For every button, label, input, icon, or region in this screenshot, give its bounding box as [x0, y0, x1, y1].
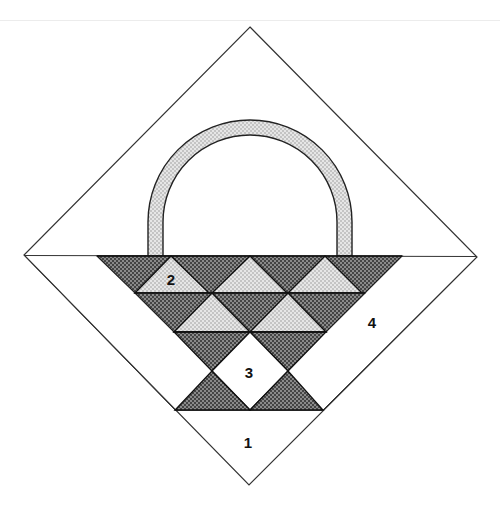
label-1: 1: [244, 434, 252, 451]
diagram-canvas: 1 2 3 4: [0, 0, 500, 505]
label-4: 4: [368, 314, 377, 331]
label-2: 2: [167, 271, 175, 288]
label-3: 3: [245, 364, 253, 381]
basket-block-diagram: 1 2 3 4: [0, 0, 500, 505]
row2-dark-band: [135, 293, 365, 332]
